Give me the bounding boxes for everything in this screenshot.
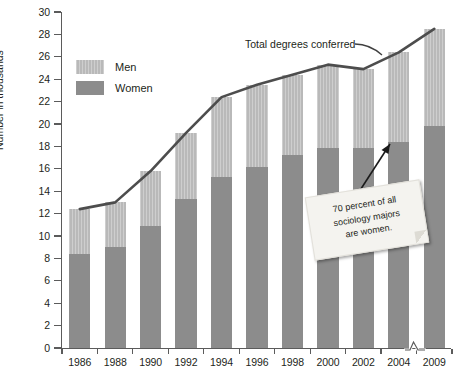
y-tick xyxy=(54,56,61,57)
x-tick xyxy=(132,349,133,354)
y-tick-label: 30 xyxy=(6,7,50,17)
legend-swatch-women-icon xyxy=(76,81,104,95)
y-tick-label: 14 xyxy=(6,186,50,196)
x-tick xyxy=(168,349,169,354)
y-tick xyxy=(54,303,61,304)
y-tick xyxy=(54,191,61,192)
x-tick xyxy=(310,349,311,354)
y-tick-label: 24 xyxy=(6,74,50,84)
y-tick-label: 10 xyxy=(6,231,50,241)
total-degrees-leader-line xyxy=(355,30,415,64)
y-tick xyxy=(54,146,61,147)
y-tick-label: 8 xyxy=(6,253,50,263)
y-tick-label: 6 xyxy=(6,275,50,285)
x-tick xyxy=(274,349,275,354)
sociology-degrees-chart: Number in thousands 02468101214161820222… xyxy=(0,0,459,377)
x-tick xyxy=(380,349,381,354)
y-tick-label: 28 xyxy=(6,29,50,39)
y-tick xyxy=(54,123,61,124)
x-tick xyxy=(97,349,98,354)
y-tick-label: 26 xyxy=(6,51,50,61)
y-tick-label: 0 xyxy=(6,343,50,353)
legend-swatch-men-icon xyxy=(76,60,104,74)
y-tick-label: 12 xyxy=(6,208,50,218)
y-tick xyxy=(54,235,61,236)
y-tick xyxy=(54,11,61,12)
y-tick-label: 16 xyxy=(6,163,50,173)
y-tick xyxy=(54,34,61,35)
legend-item-women: Women xyxy=(76,81,153,95)
y-tick xyxy=(54,325,61,326)
y-tick-label: 2 xyxy=(6,320,50,330)
y-axis-title: Number in thousands xyxy=(0,50,5,150)
sticky-note-fold-icon xyxy=(414,230,428,244)
y-tick xyxy=(54,347,61,348)
y-tick xyxy=(54,258,61,259)
x-axis-line xyxy=(61,348,451,349)
x-tick xyxy=(239,349,240,354)
y-tick xyxy=(54,280,61,281)
x-tick xyxy=(345,349,346,354)
x-tick xyxy=(451,349,452,354)
x-tick-label-2009: 2009 xyxy=(411,357,457,368)
total-degrees-annotation-label: Total degrees conferred xyxy=(245,38,355,50)
y-tick xyxy=(54,168,61,169)
y-tick-label: 22 xyxy=(6,96,50,106)
x-tick xyxy=(203,349,204,354)
y-tick xyxy=(54,79,61,80)
axis-break-icon xyxy=(404,339,426,353)
y-tick xyxy=(54,213,61,214)
legend-label-men: Men xyxy=(115,61,136,73)
y-tick-label: 20 xyxy=(6,119,50,129)
legend: Men Women xyxy=(76,60,153,102)
y-tick-label: 18 xyxy=(6,141,50,151)
x-tick xyxy=(61,349,62,354)
y-tick xyxy=(54,101,61,102)
y-tick-label: 4 xyxy=(6,298,50,308)
sticky-note-text: 70 percent of all sociology majors are w… xyxy=(307,189,426,247)
legend-item-men: Men xyxy=(76,60,153,74)
legend-label-women: Women xyxy=(115,82,153,94)
